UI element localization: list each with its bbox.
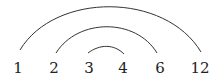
node-label-1: 1 xyxy=(13,59,23,77)
node-label-12: 12 xyxy=(190,59,209,77)
node-label-2: 2 xyxy=(49,59,59,77)
node-label-3: 3 xyxy=(84,59,94,77)
arc-2-6 xyxy=(56,27,157,53)
arc-3-4 xyxy=(88,46,124,54)
arc-1-12 xyxy=(20,7,201,52)
arc-diagram: 1 2 3 4 6 12 xyxy=(0,0,217,79)
node-label-4: 4 xyxy=(118,59,128,77)
node-label-6: 6 xyxy=(155,59,165,77)
